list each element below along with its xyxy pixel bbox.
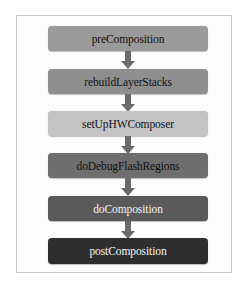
step-label: doDebugFlashRegions	[77, 160, 180, 172]
step-rebuildlayerstacks: rebuildLayerStacks	[48, 69, 208, 94]
step-label: setUpHWComposer	[82, 118, 174, 130]
step-label: rebuildLayerStacks	[84, 76, 172, 88]
step-docomposition: doComposition	[48, 196, 208, 221]
step-label: doComposition	[93, 203, 163, 215]
step-label: preComposition	[92, 33, 165, 45]
arrow-down-icon	[121, 178, 135, 197]
step-label: postComposition	[89, 245, 166, 257]
step-dodebugflashregions: doDebugFlashRegions	[48, 153, 208, 178]
step-postcomposition: postComposition	[48, 238, 208, 264]
step-setuphwcomposer: setUpHWComposer	[48, 111, 208, 136]
step-precomposition: preComposition	[48, 26, 208, 51]
arrow-down-icon	[121, 51, 135, 70]
